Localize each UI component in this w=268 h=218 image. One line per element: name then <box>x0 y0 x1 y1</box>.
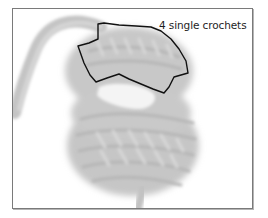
figure-frame: 4 single crochets <box>12 8 253 209</box>
callout-label: 4 single crochets <box>159 19 247 31</box>
crochet-illustration <box>13 9 252 208</box>
